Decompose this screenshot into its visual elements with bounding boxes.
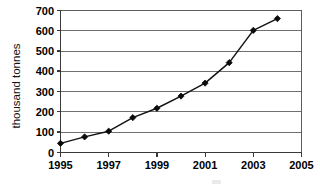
x-tick-marks: [61, 153, 302, 158]
line-chart-figure: thousand tonnes: [0, 0, 320, 190]
y-axis-title-group: thousand tonnes: [10, 43, 22, 128]
y-tick-label-700: 700: [36, 5, 54, 17]
x-tick-labels: 1995 1997 1999 2001 2003 2005: [48, 159, 313, 171]
y-tick-labels: 700 600 500 400 300 200 100 0: [36, 5, 54, 159]
x-tick-label-2003: 2003: [241, 159, 265, 171]
chart-canvas: thousand tonnes: [0, 0, 320, 190]
data-point-1999: [154, 105, 160, 111]
x-tick-label-2001: 2001: [193, 159, 217, 171]
y-tick-label-500: 500: [36, 45, 54, 57]
y-tick-label-0: 0: [48, 147, 54, 159]
series-markers: [57, 16, 280, 147]
x-tick-label-1999: 1999: [145, 159, 169, 171]
scan-artifact: [212, 180, 221, 184]
y-tick-label-300: 300: [36, 86, 54, 98]
data-point-2004: [274, 16, 280, 22]
axes: [61, 11, 302, 153]
data-point-2000: [178, 93, 184, 99]
y-axis-title: thousand tonnes: [10, 43, 22, 128]
data-point-1997: [106, 128, 112, 134]
y-tick-label-400: 400: [36, 65, 54, 77]
y-tick-label-600: 600: [36, 25, 54, 37]
series-line: [61, 19, 278, 144]
x-tick-label-2005: 2005: [289, 159, 313, 171]
x-tick-label-1995: 1995: [48, 159, 72, 171]
y-tick-label-100: 100: [36, 126, 54, 138]
x-tick-label-1997: 1997: [96, 159, 120, 171]
y-tick-label-200: 200: [36, 106, 54, 118]
data-point-1996: [82, 134, 88, 140]
data-point-1995: [57, 140, 63, 146]
plot-gridlines: [61, 11, 302, 153]
data-series-thousand-tonnes: [57, 16, 280, 147]
data-point-1998: [130, 115, 136, 121]
